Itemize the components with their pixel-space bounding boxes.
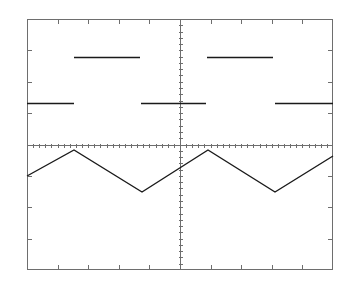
screen-background — [0, 0, 347, 287]
scope-canvas — [0, 0, 347, 287]
oscilloscope-display — [0, 0, 347, 287]
